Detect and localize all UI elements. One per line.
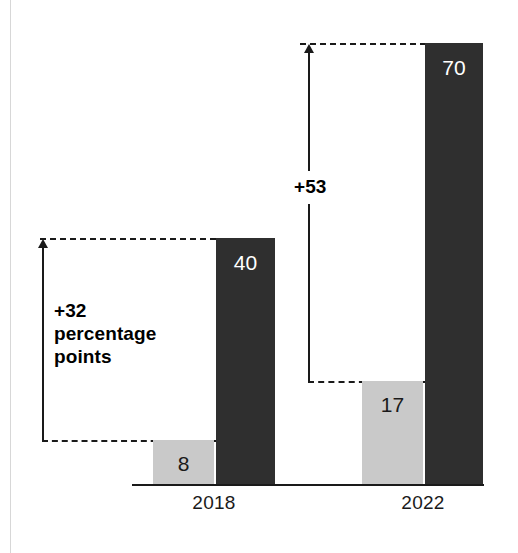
delta-label-2018-unit-line2: points xyxy=(54,345,174,368)
plot-area: +32 percentage points 8 40 2018 +53 17 xyxy=(0,0,518,553)
delta-label-2018-unit-line1: percentage xyxy=(54,322,174,345)
x-axis-line xyxy=(132,484,484,486)
bar-2022-light: 17 xyxy=(362,381,423,485)
bar-value-2022-light: 17 xyxy=(362,394,423,415)
x-tick-label-2018: 2018 xyxy=(154,492,274,514)
delta-label-2022-value: +53 xyxy=(294,176,327,197)
delta-arrow-2022-shaft-lower xyxy=(308,204,310,381)
x-tick-label-2022: 2022 xyxy=(363,492,483,514)
delta-arrow-2022-foot xyxy=(308,380,310,382)
bar-value-2022-dark: 70 xyxy=(425,57,483,78)
bar-value-2018-dark: 40 xyxy=(216,252,275,273)
bar-2018-dark: 40 xyxy=(216,238,275,485)
delta-arrow-2018-shaft xyxy=(42,246,44,441)
bar-2018-light: 8 xyxy=(153,440,214,485)
guide-line-2022-top xyxy=(300,43,426,45)
delta-label-2018-value: +32 xyxy=(54,299,174,322)
delta-arrow-2022-head-icon xyxy=(304,44,314,53)
guide-line-2018-top xyxy=(40,238,216,240)
delta-label-2018: +32 percentage points xyxy=(54,299,174,369)
bar-value-2018-light: 8 xyxy=(153,453,214,474)
delta-arrow-2018-foot xyxy=(42,439,44,441)
delta-label-2022: +53 xyxy=(289,173,332,200)
delta-arrow-2022-shaft-upper xyxy=(308,51,310,171)
bar-2022-dark: 70 xyxy=(425,43,483,485)
delta-arrow-2018-head-icon xyxy=(38,239,48,248)
bar-chart: +32 percentage points 8 40 2018 +53 17 xyxy=(0,0,518,553)
